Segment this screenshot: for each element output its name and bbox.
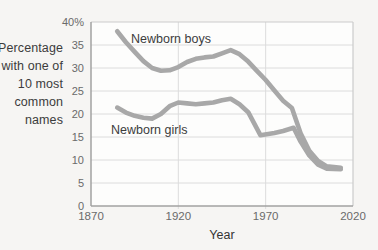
- y-axis-title: Percentage with one of 10 most common na…: [0, 39, 63, 129]
- y-tick-label: 40%: [62, 16, 84, 28]
- series-label-newborn-boys: Newborn boys: [131, 32, 211, 46]
- y-tick-label: 25: [72, 85, 84, 97]
- y-axis-title-line: with one of: [0, 57, 63, 75]
- y-axis-title-line: Percentage: [0, 39, 63, 57]
- y-tick-label: 30: [72, 62, 84, 74]
- names-chart-figure: Percentage with one of 10 most common na…: [0, 0, 378, 250]
- y-tick-label: 20: [72, 108, 84, 120]
- y-axis-title-line: 10 most: [0, 75, 63, 93]
- y-tick-label: 10: [72, 154, 84, 166]
- x-tick-label: 1920: [156, 210, 200, 222]
- y-tick-label: 35: [72, 39, 84, 51]
- x-tick-label: 2020: [331, 210, 375, 222]
- y-axis-title-line: names: [0, 111, 63, 129]
- y-tick-label: 5: [78, 177, 84, 189]
- x-axis-title: Year: [91, 228, 353, 242]
- x-tick-label: 1970: [244, 210, 288, 222]
- series-label-newborn-girls: Newborn girls: [111, 123, 187, 137]
- y-axis-title-line: common: [0, 93, 63, 111]
- x-tick-label: 1870: [69, 210, 113, 222]
- y-tick-label: 15: [72, 131, 84, 143]
